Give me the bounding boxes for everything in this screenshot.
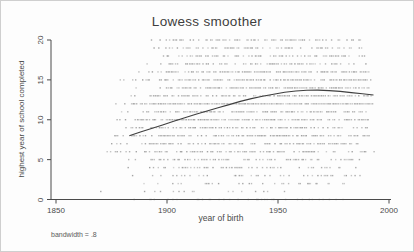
y-tick-label: 20 [36,36,45,45]
lowess-figure: Lowess smoother highest year of school c… [0,0,414,252]
scatter-points [100,39,375,200]
lowess-curve [129,90,373,136]
y-tick-label: 5 [36,157,45,161]
x-axis-title: year of birth [51,213,391,223]
bandwidth-note: bandwidth = .8 [51,231,97,238]
y-tick-label: 0 [36,197,45,201]
y-tick-label: 10 [36,115,45,124]
y-tick-label: 15 [36,75,45,84]
